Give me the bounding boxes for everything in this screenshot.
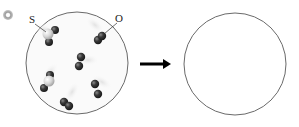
before-container xyxy=(26,12,128,114)
reaction-diagram: S O xyxy=(0,0,299,127)
circled-bullet-icon xyxy=(3,10,13,20)
right-arrow-icon xyxy=(140,59,171,69)
diagram-canvas xyxy=(0,0,299,127)
oxygen-label: O xyxy=(115,13,123,24)
sulfur-label: S xyxy=(29,14,35,25)
after-container xyxy=(184,13,286,115)
